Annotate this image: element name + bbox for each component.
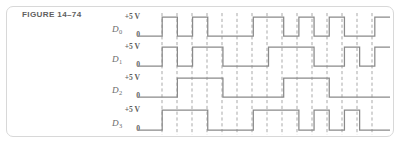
timing-grid-lines (162, 13, 372, 135)
waveform-d3 (138, 110, 390, 130)
timing-diagram-plot (0, 0, 402, 145)
waveform-d1 (138, 47, 390, 66)
waveform-d0 (138, 17, 390, 36)
waveform-d2 (138, 78, 390, 97)
figure-container: FIGURE 14–74 D0 D1 D2 D3 +5 V 0 +5 V 0 +… (0, 0, 402, 145)
waveform-traces (138, 17, 390, 130)
